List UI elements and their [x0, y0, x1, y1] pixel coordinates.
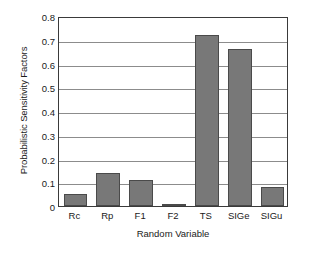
bar-f2 — [162, 204, 186, 206]
y-axis-tick-label: 0.2 — [15, 154, 55, 165]
y-axis-tick-label: 0.4 — [15, 107, 55, 118]
y-axis-tick-label: 0.8 — [15, 12, 55, 23]
plot-area — [58, 17, 288, 207]
bar-slot — [162, 18, 186, 206]
x-axis-tick-label: SIGu — [261, 210, 283, 221]
bar-slot — [96, 18, 120, 206]
chart-figure: Probabilistic Sensitivity Factors 00.10.… — [0, 0, 310, 256]
y-axis-tick-label: 0.6 — [15, 59, 55, 70]
x-axis-tick-label: Rc — [69, 210, 81, 221]
bar-rp — [96, 173, 120, 206]
bar-rc — [64, 194, 88, 206]
x-axis-tick-label: Rp — [101, 210, 113, 221]
x-axis-tick-label: F2 — [167, 210, 178, 221]
y-axis-tick-label: 0.7 — [15, 35, 55, 46]
bar-slot — [195, 18, 219, 206]
y-axis-tick-label: 0.3 — [15, 130, 55, 141]
bar-f1 — [129, 180, 153, 206]
bar-series — [59, 18, 287, 206]
bar-slot — [261, 18, 285, 206]
bar-slot — [129, 18, 153, 206]
x-axis-tick-label: F1 — [135, 210, 146, 221]
bar-sigu — [261, 187, 285, 206]
y-axis-tick-label: 0.5 — [15, 83, 55, 94]
bar-slot — [228, 18, 252, 206]
bar-slot — [64, 18, 88, 206]
y-axis-tick-label: 0.1 — [15, 178, 55, 189]
y-axis-tick-label: 0 — [15, 202, 55, 213]
bar-sige — [228, 49, 252, 206]
x-axis-tick-label: SIGe — [228, 210, 250, 221]
bar-ts — [195, 35, 219, 206]
x-axis-title: Random Variable — [58, 228, 288, 239]
x-axis-tick-label: TS — [200, 210, 212, 221]
